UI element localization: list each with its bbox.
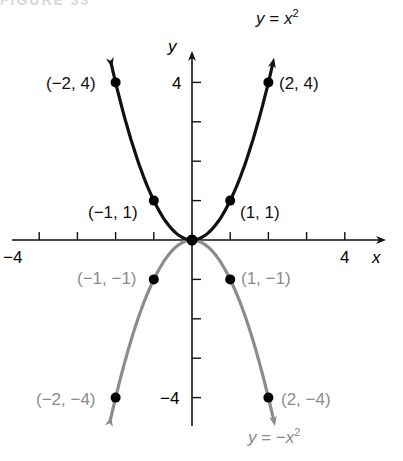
- x-axis-label: x: [371, 248, 381, 267]
- data-point: [225, 196, 235, 206]
- data-point: [111, 393, 121, 403]
- point-label: (−1, −1): [77, 269, 137, 288]
- point-label: (−1, 1): [88, 203, 138, 222]
- point-label: (2, −4): [281, 390, 331, 409]
- data-point: [187, 235, 198, 246]
- point-label: (2, 4): [279, 74, 319, 93]
- data-point: [149, 274, 159, 284]
- y-tick-label-4: 4: [172, 74, 181, 93]
- point-label: (−2, −4): [36, 390, 96, 409]
- equation-lower: y = −x2: [247, 426, 300, 447]
- data-point: [263, 77, 273, 87]
- data-point: [225, 274, 235, 284]
- x-tick-label-neg4: −4: [3, 248, 22, 267]
- data-point: [263, 393, 273, 403]
- equation-upper: y = x2: [255, 7, 299, 28]
- parabola-graph: y x −4 4 4 −4 y = x2 y = −x2 (−2, 4) (−1…: [0, 0, 403, 461]
- point-label: (1, −1): [241, 269, 291, 288]
- data-point: [149, 196, 159, 206]
- y-tick-label-neg4: −4: [160, 389, 179, 408]
- point-label: (1, 1): [240, 203, 280, 222]
- x-tick-label-4: 4: [340, 248, 349, 267]
- y-axis-label: y: [167, 37, 178, 56]
- data-point: [111, 77, 121, 87]
- point-label: (−2, 4): [46, 74, 96, 93]
